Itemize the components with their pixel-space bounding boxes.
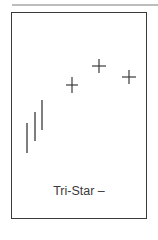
doji-stars [66,59,136,93]
doji-cross-icon [92,59,106,73]
pattern-label: Tri-Star – [0,184,158,198]
bullish-bars [27,100,42,153]
doji-cross-icon [122,70,136,84]
doji-cross-icon [66,77,78,93]
